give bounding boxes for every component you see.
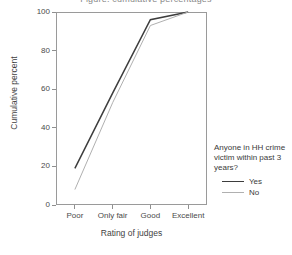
x-tick-mark [74,205,75,209]
legend-label: Yes [249,177,262,186]
legend-swatch-no [222,192,244,193]
legend-entries: YesNo [214,176,288,198]
x-tick-mark [112,205,113,209]
cumulative-percent-line-chart: Figure: cumulative percentages Cumulativ… [0,0,292,255]
legend-title: Anyone in HH crime victim within past 3 … [214,143,288,173]
x-tick-mark [188,205,189,209]
y-tick-label: 0 [28,201,50,209]
legend-swatch-yes [222,181,244,182]
legend: Anyone in HH crime victim within past 3 … [214,143,288,198]
y-tick-label: 20 [28,162,50,170]
x-tick-label: Excellent [158,211,218,220]
chart-title: Figure: cumulative percentages [0,0,292,4]
y-axis-title: Cumulative percent [9,33,19,153]
legend-label: No [249,188,259,197]
y-tick-label: 100 [28,8,50,16]
series-line-no [75,12,188,190]
y-tick-label: 60 [28,85,50,93]
legend-item: No [222,187,288,198]
x-axis-title: Rating of judges [56,228,207,238]
series-lines [56,12,207,205]
series-line-yes [75,12,188,168]
x-tick-mark [150,205,151,209]
y-tick-label: 80 [28,47,50,55]
y-tick-label: 40 [28,124,50,132]
legend-item: Yes [222,176,288,187]
